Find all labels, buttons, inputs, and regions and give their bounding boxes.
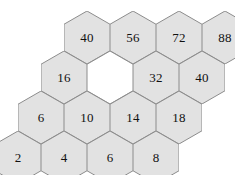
hex-cell[interactable]: 2 <box>0 131 41 175</box>
hex-cell-value: 8 <box>133 131 179 175</box>
hex-cell[interactable]: 8 <box>133 131 179 175</box>
hex-cell[interactable]: 4 <box>41 131 87 175</box>
hex-cell[interactable]: 6 <box>87 131 133 175</box>
hex-cell-value: 4 <box>41 131 87 175</box>
hex-cell-value: 6 <box>87 131 133 175</box>
hex-cell-value: 2 <box>0 131 41 175</box>
hexagon-number-grid: 4056728816324061014182468 <box>0 0 235 175</box>
